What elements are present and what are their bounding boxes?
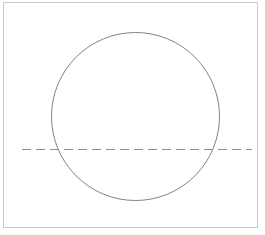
- circle-outline: [52, 33, 220, 201]
- figure-canvas: [0, 0, 265, 235]
- geometry-figure: [0, 0, 265, 235]
